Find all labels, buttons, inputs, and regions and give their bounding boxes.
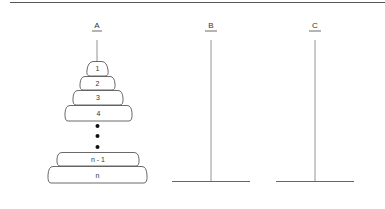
ellipsis-dot: [96, 145, 100, 149]
ellipsis-dot: [96, 124, 100, 128]
peg-b: B: [172, 21, 250, 182]
disk-n-minus-1-label: n - 1: [91, 156, 105, 163]
disk-4: 4: [65, 106, 132, 122]
ellipsis-dot: [96, 134, 100, 138]
peg-a: A: [92, 21, 102, 62]
disk-stack-a: 1 2 3 4 n - 1 n: [48, 62, 147, 184]
disk-4-label: 4: [97, 110, 101, 117]
disk-n-label: n: [96, 172, 100, 179]
disk-1-label: 1: [96, 65, 100, 72]
disk-n: n: [48, 167, 147, 184]
disk-1: 1: [87, 62, 108, 77]
disk-3: 3: [73, 91, 123, 106]
disk-n-minus-1: n - 1: [57, 153, 139, 167]
tower-of-hanoi-diagram: A B C 1 2 3 4: [0, 0, 385, 209]
peg-c-label: C: [312, 21, 318, 30]
disk-2-label: 2: [96, 80, 100, 87]
peg-a-label: A: [94, 21, 100, 30]
disk-3-label: 3: [96, 94, 100, 101]
peg-b-label: B: [208, 21, 213, 30]
peg-c: C: [276, 21, 354, 182]
disk-2: 2: [80, 77, 115, 91]
